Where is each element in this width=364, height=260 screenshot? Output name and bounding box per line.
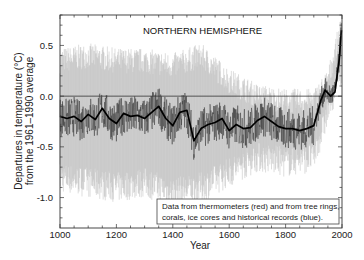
y-axis-title-line2: from the 1961–1990 average — [24, 56, 35, 185]
x-tick-label: 2000 — [331, 229, 352, 240]
x-axis-title: Year — [190, 240, 211, 251]
legend-line-1: Data from thermometers (red) and from tr… — [162, 202, 339, 211]
y-tick-label: -0.5 — [37, 141, 53, 152]
y-tick-label: 0.5 — [40, 40, 53, 51]
temperature-chart: 1000120014001600180020000.50.0-0.5-1.0 N… — [0, 0, 364, 260]
legend-box: Data from thermometers (red) and from tr… — [157, 199, 339, 224]
legend-line-2: corals, ice cores and historical records… — [162, 213, 323, 222]
y-axis-title-line1: Departures in temperature (°C) — [13, 52, 24, 189]
x-tick-label: 1400 — [162, 229, 183, 240]
x-tick-label: 1800 — [275, 229, 296, 240]
x-tick-label: 1600 — [219, 229, 240, 240]
x-tick-label: 1200 — [106, 229, 127, 240]
chart-title: NORTHERN HEMISPHERE — [143, 25, 262, 36]
y-axis-title: Departures in temperature (°C) from the … — [13, 52, 35, 189]
x-tick-label: 1000 — [49, 229, 70, 240]
y-tick-label: 0.0 — [40, 91, 53, 102]
y-tick-label: -1.0 — [37, 192, 53, 203]
